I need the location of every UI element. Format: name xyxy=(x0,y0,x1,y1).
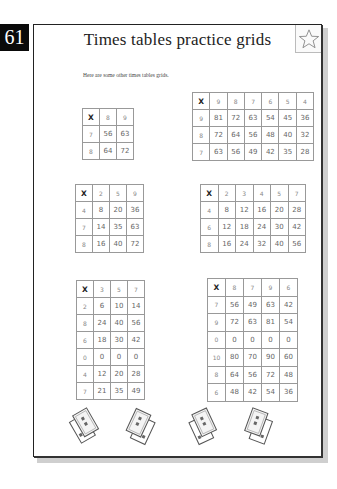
grid-row-header: 4 xyxy=(77,366,94,383)
grid-cell: 40 xyxy=(279,127,296,144)
grid-cell: 24 xyxy=(236,236,254,253)
grid-header-row: X259 xyxy=(76,185,144,202)
grid-column-header: 5 xyxy=(279,93,296,110)
times-grid-3: X25948203671435638164072 xyxy=(75,184,144,253)
page-number: 61 xyxy=(0,24,29,51)
grid-cell: 12 xyxy=(94,366,111,383)
grid-column-header: 8 xyxy=(100,109,117,126)
grid-column-header: 7 xyxy=(288,185,306,202)
grid-cell: 0 xyxy=(226,331,244,349)
grid-row-header: 4 xyxy=(201,202,219,219)
grid-row: 261014 xyxy=(77,298,145,315)
playing-cards-icon xyxy=(120,406,160,452)
grid-cell: 54 xyxy=(262,110,279,127)
grid-corner-multiply: X xyxy=(76,185,93,202)
grid-row: 4122028 xyxy=(77,366,145,383)
grid-cell: 63 xyxy=(262,296,280,314)
grid-row: 0000 xyxy=(77,349,145,366)
grid-cell: 28 xyxy=(296,144,313,161)
grid-column-header: 4 xyxy=(296,93,313,110)
grid-cell: 8 xyxy=(93,202,110,219)
grid-column-header: 9 xyxy=(262,279,280,297)
grid-column-header: 2 xyxy=(218,185,236,202)
grid-row-header: 8 xyxy=(83,143,100,160)
grid-row-header: 7 xyxy=(77,383,94,400)
grid-header-row: X8796 xyxy=(208,279,298,297)
grid-cell: 48 xyxy=(280,366,298,384)
times-grid-2: X987654981726354453687264564840327635649… xyxy=(192,92,314,161)
grid-column-header: 4 xyxy=(253,185,271,202)
grid-cell: 56 xyxy=(227,144,244,161)
grid-column-header: 7 xyxy=(244,279,262,297)
grid-row-header: 7 xyxy=(193,144,210,161)
grid-row: 7213549 xyxy=(77,383,145,400)
grid-cell: 81 xyxy=(210,110,227,127)
grid-row: 1080709060 xyxy=(208,349,298,367)
grid-row: 972638154 xyxy=(208,314,298,332)
grid-cell: 35 xyxy=(279,144,296,161)
grid-cell: 48 xyxy=(262,127,279,144)
grid-row: 81624324056 xyxy=(201,236,306,253)
grid-column-header: 8 xyxy=(227,93,244,110)
grid-cell: 40 xyxy=(271,236,289,253)
grid-corner-multiply: X xyxy=(193,93,210,110)
grid-cell: 20 xyxy=(110,202,127,219)
grid-cell: 10 xyxy=(111,298,128,315)
grid-cell: 36 xyxy=(296,110,313,127)
grid-cell: 72 xyxy=(210,127,227,144)
playing-cards-icon xyxy=(66,406,106,452)
page-title: Times tables practice grids xyxy=(34,30,321,50)
grid-row-header: 6 xyxy=(208,384,226,402)
grid-row: 00000 xyxy=(208,331,298,349)
grid-row-header: 8 xyxy=(193,127,210,144)
grid-column-header: 5 xyxy=(111,281,128,298)
grid-cell: 32 xyxy=(253,236,271,253)
grid-cell: 64 xyxy=(227,127,244,144)
grid-row: 4812162028 xyxy=(201,202,306,219)
grid-cell: 45 xyxy=(279,110,296,127)
grid-row-header: 6 xyxy=(77,332,94,349)
times-grid-6: X879675649634297263815400000108070906086… xyxy=(207,278,298,402)
grid-row-header: 4 xyxy=(76,202,93,219)
grid-cell: 49 xyxy=(128,383,145,400)
grid-cell: 63 xyxy=(117,126,134,143)
grid-column-header: 3 xyxy=(236,185,254,202)
grid-cell: 49 xyxy=(244,296,262,314)
grid-cell: 56 xyxy=(226,296,244,314)
star-outline-icon xyxy=(298,28,320,50)
playing-cards-icon xyxy=(184,406,224,452)
grid-cell: 48 xyxy=(226,384,244,402)
grid-cell: 14 xyxy=(128,298,145,315)
grid-row: 648425436 xyxy=(208,384,298,402)
grid-row: 756496342 xyxy=(208,296,298,314)
grid-cell: 0 xyxy=(262,331,280,349)
grid-cell: 24 xyxy=(253,219,271,236)
grid-cell: 72 xyxy=(127,236,144,253)
grid-cell: 35 xyxy=(110,219,127,236)
grid-cell: 60 xyxy=(280,349,298,367)
grid-column-header: 7 xyxy=(244,93,261,110)
grid-cell: 16 xyxy=(253,202,271,219)
grid-cell: 20 xyxy=(271,202,289,219)
grid-row-header: 10 xyxy=(208,349,226,367)
grid-corner-multiply: X xyxy=(201,185,219,202)
grid-cell: 42 xyxy=(262,144,279,161)
grid-cell: 70 xyxy=(244,349,262,367)
grid-cell: 64 xyxy=(100,143,117,160)
grid-row: 86472 xyxy=(83,143,134,160)
grid-row-header: 7 xyxy=(83,126,100,143)
grid-cell: 63 xyxy=(244,314,262,332)
grid-row: 8726456484032 xyxy=(193,127,314,144)
grid-header-row: X89 xyxy=(83,109,134,126)
grid-cell: 8 xyxy=(218,202,236,219)
grid-cell: 0 xyxy=(280,331,298,349)
grid-column-header: 9 xyxy=(127,185,144,202)
grid-column-header: 2 xyxy=(93,185,110,202)
grid-header-row: X23457 xyxy=(201,185,306,202)
grid-column-header: 6 xyxy=(262,93,279,110)
grid-cell: 54 xyxy=(280,314,298,332)
grid-cell: 16 xyxy=(218,236,236,253)
grid-cell: 36 xyxy=(127,202,144,219)
grid-cell: 63 xyxy=(210,144,227,161)
times-grid-4: X2345748121620286121824304281624324056 xyxy=(200,184,306,253)
